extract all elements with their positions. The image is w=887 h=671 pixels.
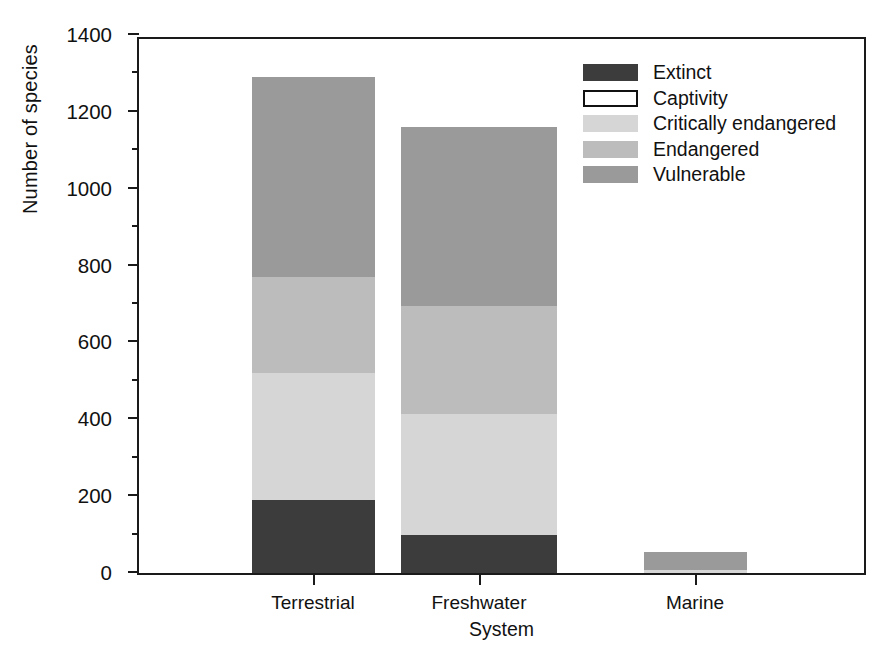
bar-segment-marine-vulnerable[interactable] <box>644 552 747 570</box>
x-tick-terrestrial <box>313 573 315 585</box>
y-minor-tick-500 <box>132 379 139 381</box>
bar-terrestrial[interactable] <box>252 77 375 573</box>
y-minor-tick-100 <box>132 533 139 535</box>
bar-segment-terrestrial-extinct[interactable] <box>252 500 375 573</box>
y-tick-200: 200 <box>128 494 139 496</box>
x-tick-freshwater <box>479 573 481 585</box>
bar-segment-freshwater-extinct[interactable] <box>401 535 557 573</box>
y-minor-tick-700 <box>132 302 139 304</box>
y-axis-title: Number of species <box>19 0 42 279</box>
x-axis-title: System <box>139 618 864 641</box>
chart-legend: ExtinctCaptivityCritically endangeredEnd… <box>583 60 858 188</box>
legend-swatch-icon <box>583 166 638 183</box>
y-tick-600: 600 <box>128 340 139 342</box>
legend-label: Extinct <box>653 63 712 83</box>
y-tick-label: 0 <box>101 561 112 585</box>
legend-item-vulnerable[interactable]: Vulnerable <box>583 162 858 188</box>
bar-segment-freshwater-critically-endangered[interactable] <box>401 414 557 535</box>
bar-segment-freshwater-vulnerable[interactable] <box>401 127 557 306</box>
x-tick-marine <box>695 573 697 585</box>
y-tick-1000: 1000 <box>128 187 139 189</box>
legend-swatch-icon <box>583 90 638 107</box>
bar-segment-freshwater-endangered[interactable] <box>401 306 557 414</box>
legend-label: Vulnerable <box>653 165 746 185</box>
x-tick-label-terrestrial: Terrestrial <box>271 592 354 614</box>
legend-item-critically-endangered[interactable]: Critically endangered <box>583 111 858 137</box>
y-tick-800: 800 <box>128 264 139 266</box>
chart-figure: Number of species 0200400600800100012001… <box>0 0 887 671</box>
x-tick-label-freshwater: Freshwater <box>431 592 526 614</box>
legend-item-captivity[interactable]: Captivity <box>583 86 858 112</box>
y-tick-label: 1000 <box>66 177 112 201</box>
bar-segment-terrestrial-critically-endangered[interactable] <box>252 373 375 500</box>
y-tick-1200: 1200 <box>128 110 139 112</box>
bar-segment-terrestrial-vulnerable[interactable] <box>252 77 375 277</box>
y-tick-label: 600 <box>78 330 112 354</box>
plot-area: Number of species 0200400600800100012001… <box>137 37 866 575</box>
y-tick-label: 1400 <box>66 23 112 47</box>
legend-item-endangered[interactable]: Endangered <box>583 137 858 163</box>
y-tick-label: 200 <box>78 484 112 508</box>
bar-segment-terrestrial-endangered[interactable] <box>252 277 375 373</box>
legend-swatch-icon <box>583 141 638 158</box>
y-minor-tick-300 <box>132 456 139 458</box>
y-tick-label: 800 <box>78 254 112 278</box>
y-tick-label: 400 <box>78 407 112 431</box>
y-minor-tick-1300 <box>132 71 139 73</box>
y-tick-1400: 1400 <box>128 33 139 35</box>
legend-label: Captivity <box>653 89 728 109</box>
y-minor-tick-1100 <box>132 148 139 150</box>
y-tick-label: 1200 <box>66 100 112 124</box>
bar-freshwater[interactable] <box>401 127 557 573</box>
legend-label: Endangered <box>653 140 759 160</box>
legend-swatch-icon <box>583 64 638 81</box>
y-minor-tick-900 <box>132 225 139 227</box>
x-tick-label-marine: Marine <box>666 592 724 614</box>
legend-label: Critically endangered <box>653 114 836 134</box>
bar-segment-marine-critically-endangered[interactable] <box>644 570 747 573</box>
legend-swatch-icon <box>583 115 638 132</box>
y-tick-400: 400 <box>128 417 139 419</box>
bar-marine[interactable] <box>644 552 747 573</box>
legend-item-extinct[interactable]: Extinct <box>583 60 858 86</box>
y-tick-0: 0 <box>128 571 139 573</box>
